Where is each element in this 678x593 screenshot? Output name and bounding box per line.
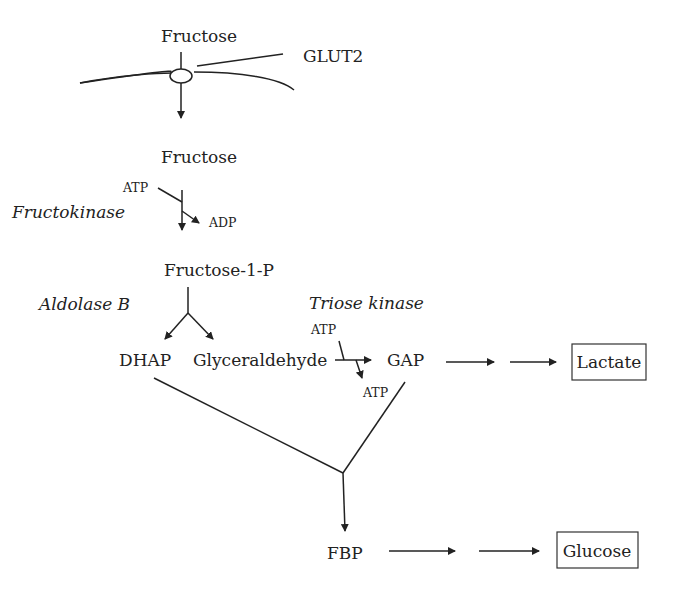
- fructokinase-adp-label: ADP: [208, 215, 236, 230]
- dhap-label: DHAP: [119, 350, 171, 370]
- fructose-pathway-diagram: Fructose GLUT2 Fructose ATP Fructokinase…: [0, 0, 678, 593]
- triose-kinase-enzyme-label: Triose kinase: [309, 293, 424, 313]
- fructose-intracellular-label: Fructose: [161, 147, 237, 167]
- triose-kinase-atp-in-line: [339, 341, 344, 360]
- glut2-pointer-line: [197, 54, 283, 66]
- glyceraldehyde-label: Glyceraldehyde: [193, 350, 327, 370]
- fructose-extracellular-label: Fructose: [161, 26, 237, 46]
- gap-label: GAP: [387, 350, 424, 370]
- fructokinase-atp-line: [158, 188, 182, 202]
- fructokinase-adp-arrow: [182, 211, 199, 223]
- lactate-label: Lactate: [577, 352, 642, 372]
- fructose-1-p-label: Fructose-1-P: [164, 260, 274, 280]
- fbp-label: FBP: [327, 543, 363, 563]
- triose-kinase-atp-out-label: ATP: [362, 385, 388, 400]
- aldolase-b-enzyme-label: Aldolase B: [37, 294, 130, 314]
- aldolase-glyceraldehyde-arrow: [188, 313, 213, 339]
- fructokinase-atp-label: ATP: [122, 180, 148, 195]
- glucose-label: Glucose: [563, 541, 632, 561]
- dhap-to-fbp-line: [154, 378, 343, 473]
- aldolase-dhap-arrow: [165, 313, 188, 339]
- fructokinase-enzyme-label: Fructokinase: [11, 202, 125, 222]
- glut2-label: GLUT2: [303, 46, 363, 66]
- fbp-formation-arrow: [343, 473, 345, 531]
- triose-kinase-atp-in-label: ATP: [310, 322, 336, 337]
- triose-kinase-atp-out-arrow: [356, 360, 362, 378]
- glut2-transporter-icon: [170, 69, 192, 83]
- membrane-right-arc: [194, 72, 294, 90]
